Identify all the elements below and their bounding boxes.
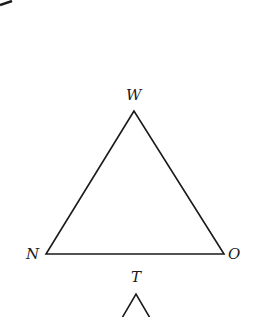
arc-fragment: [0, 1, 12, 5]
triangle-wno: [46, 111, 224, 254]
vertex-label-t: T: [131, 268, 142, 286]
vertex-label-n: N: [25, 245, 40, 263]
vertex-label-o: O: [228, 245, 240, 263]
triangle-t-partial: [122, 294, 150, 317]
vertex-label-w: W: [126, 86, 143, 104]
geometry-diagram: W N O T: [0, 0, 254, 317]
